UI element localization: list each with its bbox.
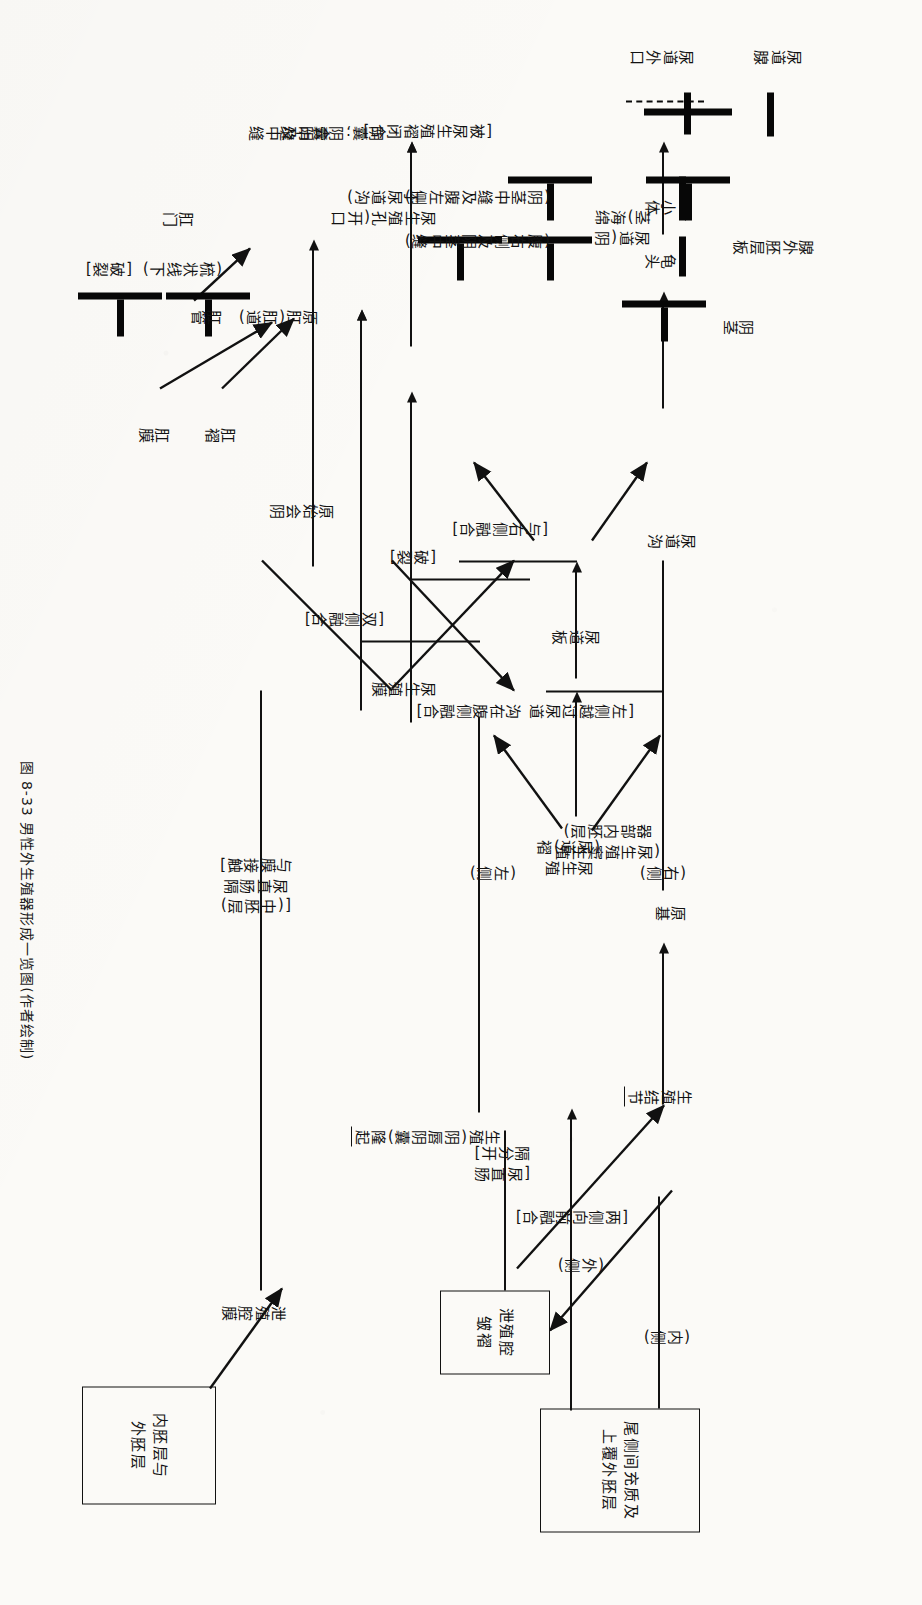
label-primitive-perineum: 原始会阴: [268, 500, 334, 520]
label-medial: (内侧): [642, 1326, 690, 1346]
label-urethral-groove: 尿道沟: [647, 530, 697, 550]
bracket-ruptures-ug: [412, 578, 530, 580]
label-urogenital-membrane: 尿生殖膜: [370, 678, 436, 698]
box-cloacal-fold: 泄殖腔 皱褶: [440, 1290, 550, 1374]
connector-medial: [658, 1196, 660, 1408]
connector-plate-groove: [575, 570, 577, 678]
label-left-side: (左侧): [468, 862, 516, 882]
label-urogenital-urethral-fold: 尿生殖 (尿道)褶: [536, 836, 600, 877]
arrow-scrotum-head: [357, 309, 367, 320]
label-genital-labioscrotal-swelling: 生殖(阴唇阴囊)隆起: [351, 1126, 500, 1146]
bracket-fuse-right: [459, 560, 577, 562]
label-fuse-with-right: [与右侧融合]: [451, 518, 548, 538]
bracket-bilateral-fusion: [362, 640, 480, 642]
label-urethral-plate: 尿道板: [551, 626, 601, 646]
t-marker-glans: [678, 236, 686, 276]
box-endoderm-ectoderm: 内胚层与 外胚层: [82, 1386, 216, 1504]
label-below-pectinate-line: (梳状线下): [141, 258, 222, 278]
arrow-urogenital-membrane: [407, 391, 417, 402]
box-caudal-mesenchyme: 尾侧间充质及 上覆外胚层: [540, 1408, 700, 1532]
diagram-stage: 尾侧间充质及 上覆外胚层 泄殖腔 皱褶 内胚层与 外胚层: [0, 0, 922, 1605]
label-urethra-corpus-spongiosum: 尿道(阴 茎)海绵: [593, 206, 650, 247]
connector-genital-swelling: [478, 716, 480, 1112]
connector-scrotum: [360, 318, 362, 710]
t-marker-urethral-orifice: [644, 92, 732, 134]
connector-primordium-penis: [662, 560, 664, 890]
label-mesoderm-urorectal-contacts: [(中胚层) 尿直肠隔 与膜接触]: [219, 854, 292, 915]
label-anal-fold: 肛褶: [203, 424, 236, 444]
connector-tubercle-primordium: [662, 952, 664, 1104]
label-genital-tubercle: 生殖结节: [624, 1086, 692, 1106]
label-penis: 阴茎: [721, 316, 754, 336]
bracket-left-crosses-stem: [546, 690, 664, 692]
t-marker-pectinate: [78, 292, 162, 336]
label-lateral: (外侧): [556, 1254, 604, 1274]
label-glandular-ectodermal-plate: 腺外胚层板: [732, 236, 815, 256]
label-anal-membrane: 肛膜: [137, 424, 170, 444]
label-anus: 肛门: [161, 208, 194, 228]
label-cloacal-membrane: 泄殖腔膜: [220, 1302, 286, 1322]
label-urogenital-orifice: 尿生殖孔(开口 于尿道沟): [330, 186, 436, 227]
arrow-primitive-perineum: [309, 239, 319, 250]
label-glans: 龟头: [643, 250, 676, 270]
label-perineum-raphe: 会阴及中缝: [248, 122, 331, 142]
connector-cloacal-membrane: [260, 690, 262, 1290]
label-left-crosses-urethral-groove: [左侧越过尿道 沟在腹侧融合]: [415, 700, 634, 720]
label-bilateral-anterior-fusion: [两侧向前融合]: [514, 1206, 628, 1226]
label-urorectal-septum-separates: [尿直肠 隔分开]: [473, 1142, 530, 1183]
label-ventral-right-penile-raphe: (腹右侧及阴茎中缝): [403, 230, 550, 250]
arrow-ug-orifice-head: [407, 141, 417, 152]
t-marker-urethral-gland: [766, 92, 774, 136]
label-right-side: (右侧): [638, 862, 686, 882]
label-proctodeum: 原肛(肛道): [237, 306, 318, 326]
label-urethral-gland: 尿道腺: [753, 46, 803, 66]
label-urethral-external-orifice: 尿道外口: [628, 46, 694, 66]
arrow-tubercle-primordium: [659, 942, 669, 953]
t-marker-penis: [622, 300, 706, 322]
arrow-plate-orifice: [659, 141, 669, 152]
arrow-lateral: [567, 1108, 577, 1119]
label-ruptures-ug: [破裂]: [388, 546, 436, 566]
figure-caption: 图 8-33 男性外生殖器形成一览图(作者绘制): [18, 760, 38, 1060]
label-primordium: 原基: [653, 902, 686, 922]
arrow-plate-groove: [572, 561, 582, 572]
label-ruptures-anal: [破裂]: [84, 258, 132, 278]
label-anal-canal: 肛管: [189, 306, 222, 326]
figure-page: 尾侧间充质及 上覆外胚层 泄殖腔 皱褶 内胚层与 外胚层: [0, 0, 922, 1605]
label-bilateral-fusion: [双侧融合]: [303, 608, 384, 628]
